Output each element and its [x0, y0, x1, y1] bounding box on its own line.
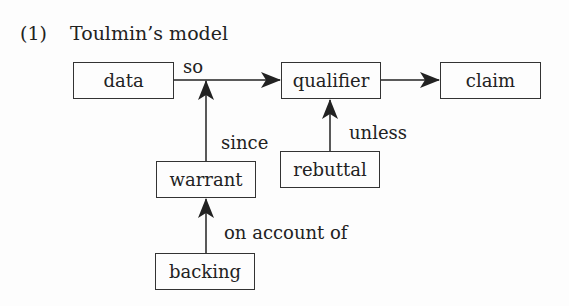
node-data: data: [73, 62, 174, 99]
node-qualifier: qualifier: [281, 62, 381, 99]
edge-label-since: since: [221, 132, 268, 153]
node-claim: claim: [440, 62, 541, 99]
node-backing: backing: [155, 253, 255, 290]
edge-label-unless: unless: [349, 122, 407, 143]
node-rebuttal: rebuttal: [280, 151, 380, 188]
edge-label-so: so: [183, 56, 203, 77]
node-warrant: warrant: [156, 161, 256, 198]
edge-label-on-account-of: on account of: [224, 222, 348, 243]
